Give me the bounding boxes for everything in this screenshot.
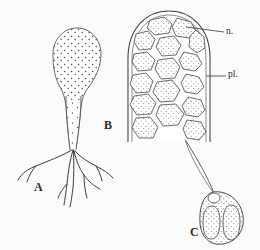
- leader-line-b-to-c: [185, 140, 213, 192]
- figure-plate: A B C n. pl.: [0, 0, 260, 250]
- annotation-label-plastid: pl.: [228, 69, 238, 79]
- figure-drawing: [0, 0, 260, 250]
- flagellum-c: [186, 141, 214, 193]
- apical-vesicle-c: [208, 193, 220, 203]
- rhizoids-a: [18, 150, 113, 207]
- panel-label-c: C: [190, 225, 199, 240]
- chloroplast-left-c: [203, 206, 220, 239]
- chloroplast-right-c: [223, 205, 240, 240]
- panel-a-group: [18, 28, 113, 207]
- panel-b-group: [128, 11, 226, 192]
- panel-label-a: A: [34, 180, 43, 195]
- panel-label-b: B: [104, 118, 112, 133]
- annotation-label-nucleus: n.: [226, 26, 233, 36]
